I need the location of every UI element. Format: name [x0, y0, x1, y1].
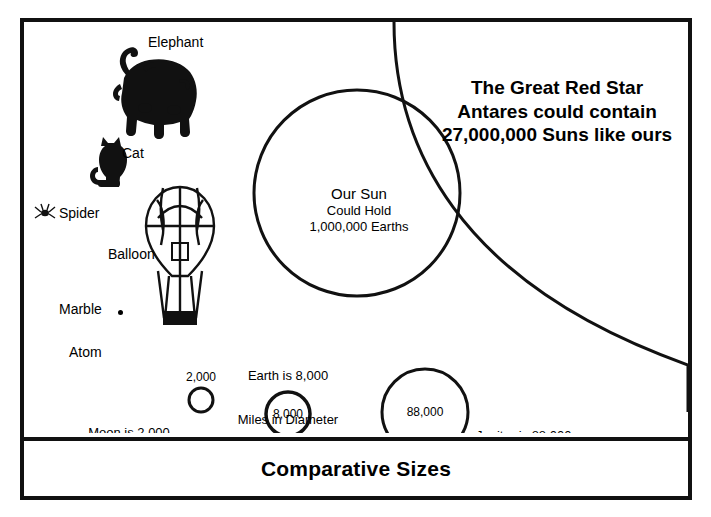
antares-line-2: Antares could contain [422, 100, 688, 124]
jupiter-circle [382, 369, 468, 433]
label-cat: Cat [122, 146, 144, 162]
spider-icon [35, 204, 55, 218]
antares-line-1: The Great Red Star [422, 76, 688, 100]
sun-line-1: Our Sun [279, 185, 439, 203]
diagram-canvas: Elephant Cat Spider Balloon Marble Atom … [24, 22, 688, 433]
elephant-icon [113, 47, 197, 139]
jupiter-label-line-1: Jupiter is 88,000 [476, 429, 576, 433]
label-spider: Spider [59, 206, 99, 222]
label-marble: Marble [59, 302, 102, 318]
balloon-icon [146, 187, 214, 325]
antares-callout: The Great Red Star Antares could contain… [422, 76, 688, 147]
sun-line-2: Could Hold [279, 203, 439, 219]
comparative-sizes-figure: Elephant Cat Spider Balloon Marble Atom … [0, 0, 711, 517]
label-elephant: Elephant [148, 35, 203, 51]
sun-line-3: 1,000,000 Earths [279, 219, 439, 235]
moon-label-line-1: Moon is 2,000 [64, 426, 194, 433]
label-atom: Atom [69, 345, 102, 361]
earth-badge: 8,000 [263, 407, 313, 421]
earth-label-line-1: Earth is 8,000 [218, 369, 358, 384]
antares-line-3: 27,000,000 Suns like ours [422, 123, 688, 147]
sun-callout: Our Sun Could Hold 1,000,000 Earths [279, 185, 439, 234]
label-balloon: Balloon [108, 247, 155, 263]
jupiter-badge: 88,000 [400, 405, 450, 419]
marble-dot-icon [118, 310, 123, 315]
moon-label: Moon is 2,000 Miles in Diameter [64, 397, 194, 433]
figure-title: Comparative Sizes [261, 457, 451, 481]
jupiter-label: Jupiter is 88,000 Miles in Diameter [476, 400, 576, 433]
figure-caption-bar: Comparative Sizes [24, 437, 688, 496]
